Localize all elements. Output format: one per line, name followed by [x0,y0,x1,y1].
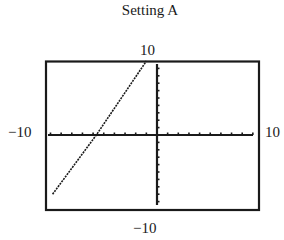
axes [48,64,253,205]
graph-window [0,0,284,240]
graph-line [53,61,147,194]
